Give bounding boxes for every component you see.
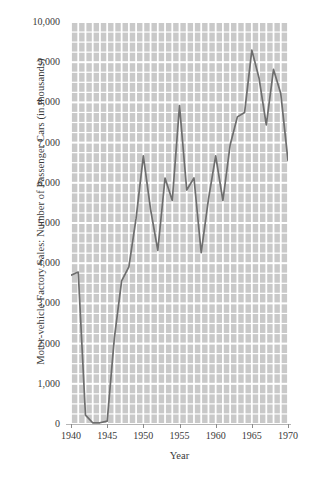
x-axis-tick-label: 1945 (97, 430, 117, 441)
x-axis-tick-mark (252, 424, 253, 428)
x-axis-tick-label: 1970 (278, 430, 298, 441)
x-axis-tick-labels: 1940194519501955196019651970 (0, 0, 314, 478)
x-axis-tick-mark (107, 424, 108, 428)
x-axis-tick-mark (216, 424, 217, 428)
x-axis-tick-label: 1965 (242, 430, 262, 441)
x-axis-tick-label: 1955 (170, 430, 190, 441)
x-axis-tick-mark (143, 424, 144, 428)
x-axis-tick-label: 1950 (133, 430, 153, 441)
x-axis-tick-mark (288, 424, 289, 428)
x-axis-title: Year (71, 450, 288, 461)
x-axis-tick-mark (71, 424, 72, 428)
page-footer-fragment (2, 471, 122, 478)
x-axis-tick-label: 1960 (206, 430, 226, 441)
x-axis-tick-mark (180, 424, 181, 428)
chart-figure: Motor-vehicle Factory Sales: Number of P… (0, 0, 314, 478)
x-axis-tick-label: 1940 (61, 430, 81, 441)
